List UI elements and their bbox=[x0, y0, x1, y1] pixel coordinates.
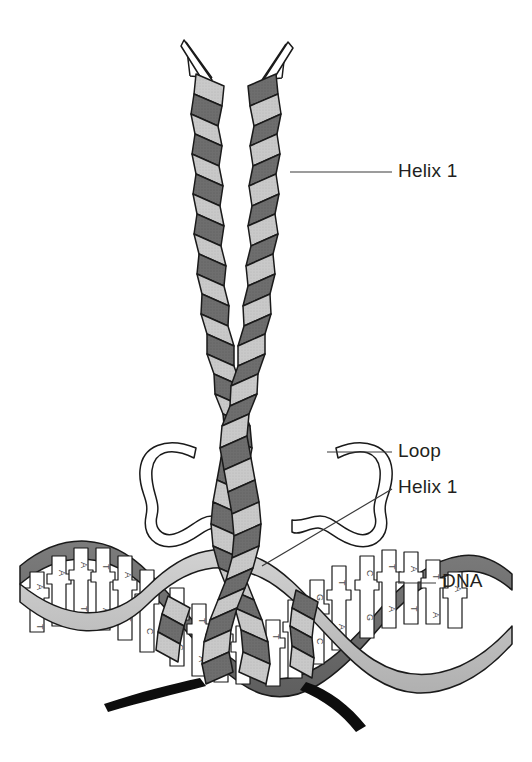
protein-terminal-tails bbox=[104, 678, 366, 732]
label-leader-lines bbox=[262, 172, 436, 583]
svg-text:A: A bbox=[57, 570, 67, 576]
svg-text:A: A bbox=[35, 584, 45, 590]
svg-text:G: G bbox=[315, 594, 325, 601]
diagram-canvas: A T A T A T T A A T G C C G T A A T T C … bbox=[0, 0, 532, 762]
svg-text:T: T bbox=[387, 564, 397, 570]
svg-text:C: C bbox=[315, 638, 325, 645]
svg-text:A: A bbox=[123, 572, 133, 578]
svg-text:G: G bbox=[365, 614, 375, 621]
svg-text:C: C bbox=[365, 570, 375, 577]
label-loop: Loop bbox=[398, 440, 441, 462]
label-helix1-bottom: Helix 1 bbox=[398, 476, 457, 498]
svg-text:T: T bbox=[431, 574, 441, 580]
svg-text:T: T bbox=[271, 634, 281, 640]
svg-text:A: A bbox=[431, 612, 441, 618]
leader-helix1-bottom bbox=[262, 489, 392, 566]
label-dna: DNA bbox=[442, 570, 483, 592]
svg-text:A: A bbox=[409, 566, 419, 572]
hlh-dna-diagram: A T A T A T T A A T G C C G T A A T T C … bbox=[0, 0, 532, 762]
svg-text:T: T bbox=[35, 624, 45, 630]
svg-text:T: T bbox=[79, 606, 89, 612]
protein-loops bbox=[140, 443, 392, 547]
svg-text:T: T bbox=[337, 580, 347, 586]
svg-text:T: T bbox=[409, 606, 419, 612]
label-helix1-top: Helix 1 bbox=[398, 160, 457, 182]
svg-text:A: A bbox=[387, 606, 397, 612]
svg-text:A: A bbox=[79, 562, 89, 568]
svg-text:C: C bbox=[145, 628, 155, 635]
svg-text:T: T bbox=[101, 564, 111, 570]
svg-text:T: T bbox=[197, 618, 207, 624]
